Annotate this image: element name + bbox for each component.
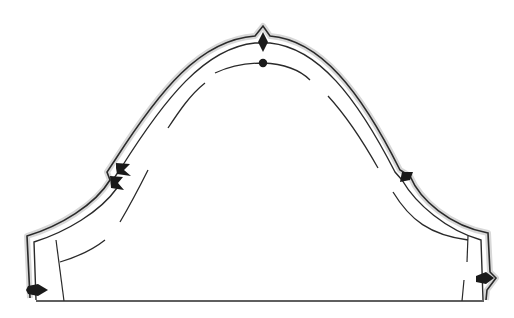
top-dot-icon (259, 59, 267, 67)
back-double-notch-icon-2 (110, 176, 124, 190)
seam-allowance-band (27, 26, 496, 300)
right-seam-guide-lower (462, 280, 464, 301)
left-seam-guide (56, 240, 64, 301)
cutting-line (27, 26, 496, 300)
ease-line (60, 63, 468, 262)
stitch-line (34, 43, 483, 300)
sleeve-pattern-diagram (0, 0, 514, 318)
back-double-notch-icon (116, 163, 131, 176)
left-hem-notch-icon (26, 284, 48, 296)
